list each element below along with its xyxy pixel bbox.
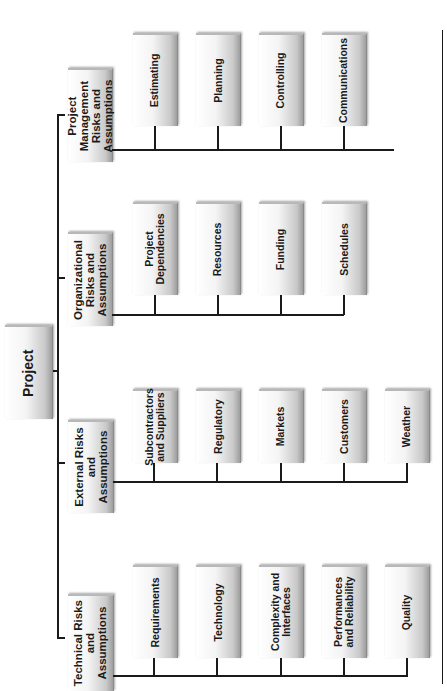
node-label: Customers <box>339 400 350 455</box>
node-label: Quality <box>401 595 412 631</box>
node-performances[interactable]: Performances and Reliability <box>322 565 367 658</box>
node-label: Subcontractors and Suppliers <box>144 388 166 466</box>
node-project-dependencies[interactable]: Project Dependencies <box>133 202 178 295</box>
node-estimating[interactable]: Estimating <box>133 33 178 126</box>
tech-row-line <box>113 675 408 677</box>
node-label: Planning <box>212 58 223 102</box>
node-label: Complexity and Interfaces <box>270 573 292 651</box>
ext-drop <box>280 461 282 482</box>
category-organizational[interactable]: Organizational Risks and Assumptions <box>68 232 113 326</box>
org-drop <box>343 293 345 315</box>
pm-drop <box>343 124 345 150</box>
org-row-line <box>112 314 344 316</box>
node-communications[interactable]: Communications <box>322 33 367 126</box>
org-drop <box>154 293 156 315</box>
node-label: Performances and Reliability <box>333 577 355 648</box>
node-label: Markets <box>275 407 286 447</box>
category-label: Technical Risks and Assumptions <box>72 600 108 686</box>
ext-row-line <box>113 481 408 483</box>
node-label: Controlling <box>275 52 286 108</box>
project-root-box[interactable]: Project <box>5 325 53 419</box>
node-planning[interactable]: Planning <box>196 33 241 126</box>
page-edge-line <box>442 30 443 684</box>
node-regulatory[interactable]: Regulatory <box>196 389 241 463</box>
node-resources[interactable]: Resources <box>196 202 241 295</box>
node-label: Weather <box>401 406 412 447</box>
spine-line <box>57 115 59 639</box>
node-weather[interactable]: Weather <box>385 389 430 463</box>
project-root-label: Project <box>21 349 36 396</box>
ext-drop <box>343 461 345 482</box>
category-project-management[interactable]: Project Management Risks and Assumptions <box>68 68 113 162</box>
node-label: Schedules <box>338 223 349 276</box>
ext-drop <box>216 461 218 482</box>
tech-drop <box>153 656 155 676</box>
node-customers[interactable]: Customers <box>322 389 367 463</box>
tech-drop <box>343 656 345 676</box>
tech-drop <box>406 656 408 676</box>
tech-drop <box>216 656 218 676</box>
node-label: Funding <box>275 229 286 270</box>
node-schedules[interactable]: Schedules <box>322 202 367 295</box>
node-label: Resources <box>213 223 224 277</box>
node-label: Technology <box>213 583 224 641</box>
tick-pm <box>57 114 65 116</box>
category-external[interactable]: External Risks and Assumptions <box>68 420 114 513</box>
tech-drop <box>280 656 282 676</box>
node-subcontractors[interactable]: Subcontractors and Suppliers <box>133 389 178 463</box>
node-controlling[interactable]: Controlling <box>259 33 304 126</box>
category-technical[interactable]: Technical Risks and Assumptions <box>68 594 114 691</box>
node-label: Project Dependencies <box>144 214 166 285</box>
node-label: Estimating <box>149 54 160 108</box>
node-funding[interactable]: Funding <box>259 202 304 295</box>
node-label: Regulatory <box>212 400 223 455</box>
org-drop <box>280 293 282 315</box>
pm-drop <box>280 124 282 150</box>
node-label: Communications <box>338 38 349 123</box>
node-label: Requirements <box>149 577 160 647</box>
pm-drop <box>217 124 219 150</box>
pm-drop <box>154 124 156 150</box>
node-quality[interactable]: Quality <box>385 565 430 658</box>
category-label: Project Management Risks and Assumptions <box>66 80 114 153</box>
tick-tech <box>57 637 65 639</box>
category-label: Organizational Risks and Assumptions <box>72 240 108 320</box>
node-markets[interactable]: Markets <box>259 389 304 463</box>
node-complexity[interactable]: Complexity and Interfaces <box>259 565 304 658</box>
tick-ext <box>57 462 65 464</box>
org-drop <box>217 293 219 315</box>
node-requirements[interactable]: Requirements <box>133 565 178 658</box>
ext-drop <box>406 461 408 482</box>
category-label: External Risks and Assumptions <box>72 428 108 507</box>
tick-org <box>57 277 65 279</box>
node-technology[interactable]: Technology <box>196 565 241 658</box>
